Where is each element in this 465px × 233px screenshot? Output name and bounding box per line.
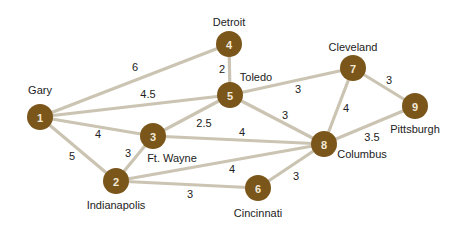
edge-weight-label: 3 [386,74,392,86]
node-8: 8 [311,131,337,157]
graph-diagram: 64.54522.53343433433.5 123456789 GaryInd… [0,0,465,233]
node-1: 1 [27,104,53,130]
edge-weight-label: 3 [187,188,193,200]
node-number: 8 [321,139,327,151]
edge-weight-label: 3.5 [364,131,379,143]
graph-svg: 64.54522.53343433433.5 123456789 GaryInd… [0,0,465,233]
edge-weight-label: 5 [69,150,75,162]
edge-weight-label: 3 [293,170,299,182]
node-6: 6 [245,175,271,201]
edge-weight-label: 3 [282,109,288,121]
node-number: 7 [350,63,356,75]
edge-weight-label: 3 [125,147,131,159]
city-label: Pittsburgh [390,123,440,135]
node-number: 6 [255,183,261,195]
city-label: Cincinnati [234,207,282,219]
edge-weight-label: 2 [219,63,225,75]
edge-weight-label: 4 [239,126,245,138]
city-label: Gary [28,84,52,96]
nodes-layer: 123456789 [27,31,428,201]
node-number: 2 [113,176,119,188]
city-label: Cleveland [329,41,378,53]
city-label: Ft. Wayne [147,152,197,164]
edge-weight-label: 4 [229,163,235,175]
node-7: 7 [340,55,366,81]
edge-weight-label: 4 [95,128,101,140]
node-number: 1 [37,112,43,124]
node-3: 3 [140,123,166,149]
node-number: 5 [227,90,233,102]
city-label: Detroit [213,16,245,28]
edge-weight-label: 2.5 [196,117,211,129]
node-2: 2 [103,168,129,194]
city-label: Indianapolis [87,199,146,211]
edge-weight-label: 4.5 [140,88,155,100]
edge-weight-label: 4 [343,102,349,114]
node-number: 9 [412,101,418,113]
node-9: 9 [402,93,428,119]
edge-weight-label: 3 [295,83,301,95]
node-4: 4 [216,31,242,57]
node-5: 5 [217,82,243,108]
city-label: Toledo [240,71,272,83]
node-number: 3 [150,131,156,143]
edge-weight-label: 6 [132,61,138,73]
city-label: Columbus [337,148,387,160]
node-number: 4 [226,39,233,51]
edge-2-6 [116,181,258,188]
